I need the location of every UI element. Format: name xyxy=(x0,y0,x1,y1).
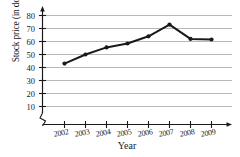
y-tick-label-50: 50 xyxy=(19,51,35,59)
data-point-2006 xyxy=(146,34,150,38)
y-tick-label-20: 20 xyxy=(19,90,35,98)
data-point-2005 xyxy=(125,41,129,45)
y-tick-label-60: 60 xyxy=(19,38,35,46)
data-point-2002 xyxy=(62,62,66,66)
y-axis xyxy=(39,6,46,113)
x-axis-title: Year xyxy=(92,140,162,151)
data-point-2007 xyxy=(167,23,171,27)
y-tick-label-70: 70 xyxy=(19,25,35,33)
line-chart: Stock price (in dollars) Year 80 70 60 5… xyxy=(0,0,240,157)
data-point-2008 xyxy=(188,37,192,41)
y-tick-label-40: 40 xyxy=(19,64,35,72)
x-axis xyxy=(43,121,233,128)
data-point-2009 xyxy=(209,37,213,41)
y-tick-label-10: 10 xyxy=(19,103,35,111)
data-point-2004 xyxy=(104,45,108,49)
y-tick-label-80: 80 xyxy=(19,12,35,20)
data-point-2003 xyxy=(83,52,87,56)
y-tick-label-30: 30 xyxy=(19,77,35,85)
